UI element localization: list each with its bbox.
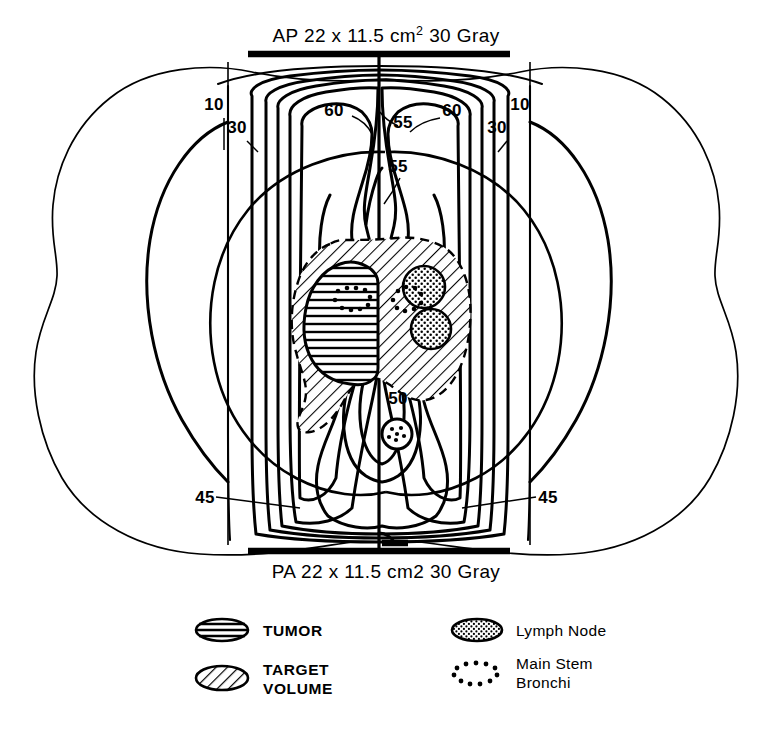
isodose-label-10-right: 10: [510, 95, 529, 114]
legend-item-lymph-node: Lymph Node: [452, 619, 606, 641]
isodose-label-30-right: 30: [487, 118, 506, 137]
legend-label-bronchi-line1: Main Stem: [516, 655, 593, 672]
ap-field-label: AP 22 x 11.5 cm2 30 Gray: [272, 24, 499, 46]
isodose-label-10-left: 10: [204, 95, 223, 114]
isodose-label-45-right: 45: [538, 488, 557, 507]
tumor-swatch-icon: [196, 619, 248, 641]
bronchus-lower-cross-section: [382, 419, 412, 449]
isodose-label-60-left: 60: [324, 101, 343, 120]
lymph-node-swatch-icon: [452, 619, 502, 641]
isodose-label-50-lower: 50: [388, 389, 407, 408]
legend-label-lymph-node: Lymph Node: [516, 622, 606, 639]
target-volume-swatch-icon: [196, 666, 248, 690]
isodose-diagram-canvas: AP 22 x 11.5 cm2 30 Gray PA 22 x 11.5 cm…: [0, 0, 771, 733]
lymph-node-lower: [411, 309, 451, 349]
legend-label-target-line1: TARGET: [263, 661, 329, 678]
isodose-label-45-left: 45: [195, 488, 214, 507]
isodose-figure: AP 22 x 11.5 cm2 30 Gray PA 22 x 11.5 cm…: [0, 0, 771, 733]
legend-label-target-line2: VOLUME: [263, 680, 333, 697]
isodose-label-60-right: 60: [442, 101, 461, 120]
lymph-node-upper: [403, 266, 445, 308]
legend-label-bronchi-line2: Bronchi: [516, 674, 571, 691]
legend-label-tumor: TUMOR: [263, 622, 323, 639]
isodose-label-55-mid: 55: [388, 157, 407, 176]
isodose-label-55-upper: 55: [393, 113, 412, 132]
isodose-label-30-left: 30: [227, 118, 246, 137]
pa-field-label: PA 22 x 11.5 cm2 30 Gray: [272, 561, 501, 582]
